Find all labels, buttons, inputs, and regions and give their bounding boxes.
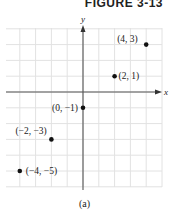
point-label: (4, 3): [117, 34, 138, 45]
figure-caption: (a): [0, 198, 169, 209]
point-label: (−2, −3): [15, 126, 46, 137]
data-point: [144, 42, 149, 47]
coordinate-plane: x y (4, 3)(2, 1)(0, −1)(−2, −3)(−4, −5): [0, 0, 169, 217]
x-axis-arrow-icon: [155, 90, 162, 95]
axes: x y: [6, 14, 168, 190]
data-point: [49, 137, 54, 142]
point-label: (0, −1): [52, 103, 78, 114]
point-label: (−4, −5): [26, 166, 57, 177]
y-axis-label: y: [80, 14, 85, 24]
data-point: [112, 74, 117, 79]
data-point: [81, 106, 86, 111]
data-point: [18, 169, 23, 174]
point-label: (2, 1): [119, 71, 140, 82]
x-axis-label: x: [163, 87, 168, 97]
